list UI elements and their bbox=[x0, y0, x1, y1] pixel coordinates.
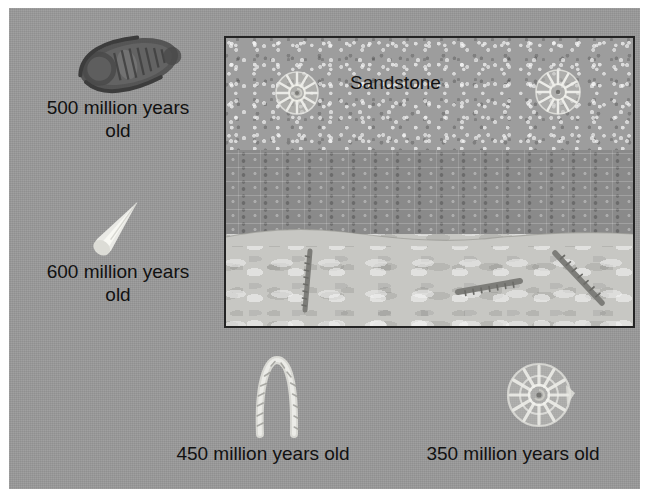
limestone-texture bbox=[226, 150, 633, 234]
rock-layer-limestone: Limestone bbox=[226, 150, 633, 234]
ammonite-fossil-icon bbox=[502, 356, 580, 434]
rock-layer-sandstone: Sandstone bbox=[226, 38, 633, 150]
age-label-450: 450 million years old bbox=[157, 442, 369, 465]
graptolite-arch-fossil-icon bbox=[247, 352, 307, 438]
sandstone-texture bbox=[226, 38, 633, 150]
rock-layer-shale: Shale bbox=[226, 234, 633, 328]
age-label-500: 500 million years old bbox=[22, 96, 214, 142]
rock-layer-label-sandstone: Sandstone bbox=[350, 72, 441, 94]
trilobite-fossil-icon bbox=[65, 28, 193, 100]
shale-texture bbox=[226, 234, 633, 328]
figure-root: Sandstone Limestone bbox=[0, 0, 649, 497]
diagram-canvas: Sandstone Limestone bbox=[9, 8, 640, 489]
age-label-350: 350 million years old bbox=[407, 442, 619, 465]
strata-box: Sandstone Limestone bbox=[224, 36, 635, 328]
age-label-600: 600 million years old bbox=[22, 260, 214, 306]
